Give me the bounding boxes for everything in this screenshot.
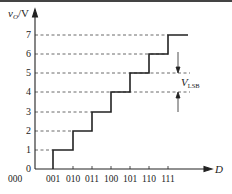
x-axis-label: D: [214, 163, 223, 175]
x-axis-arrow-icon: [204, 167, 212, 172]
vlsb-label: VLSB: [181, 76, 200, 89]
y-axis-arrow-icon: [33, 9, 38, 17]
arrow-down-icon: [176, 67, 180, 73]
y-tick-3: 3: [26, 106, 31, 117]
x-tick-000: 000: [8, 174, 23, 184]
x-tick-101: 101: [123, 174, 138, 184]
x-tick-100: 100: [104, 174, 119, 184]
y-tick-7: 7: [26, 29, 31, 40]
y-tick-5: 5: [26, 67, 31, 78]
vlsb-indicator: [176, 52, 180, 112]
y-tick-4: 4: [26, 86, 31, 97]
y-tick-1: 1: [26, 144, 31, 155]
y-tick-0: 0: [26, 163, 31, 174]
x-tick-110: 110: [142, 174, 156, 184]
y-tick-6: 6: [26, 48, 31, 59]
x-tick-011: 011: [85, 174, 99, 184]
y-axis-label: vO/V: [8, 7, 29, 21]
x-tick-001: 001: [46, 174, 61, 184]
x-tick-labels: 000 001 010 011 100 101 110 111: [8, 174, 175, 184]
x-tick-010: 010: [66, 174, 81, 184]
y-tick-labels: 0 1 2 3 4 5 6 7: [26, 29, 31, 174]
dac-staircase-diagram: vO/V 0 1 2 3 4 5 6 7 000 001 010 011 100…: [0, 0, 232, 194]
axes: [33, 9, 213, 172]
y-tick-2: 2: [26, 125, 31, 136]
arrow-up-icon: [176, 92, 180, 98]
x-tick-111: 111: [161, 174, 175, 184]
staircase-output: [53, 35, 188, 169]
